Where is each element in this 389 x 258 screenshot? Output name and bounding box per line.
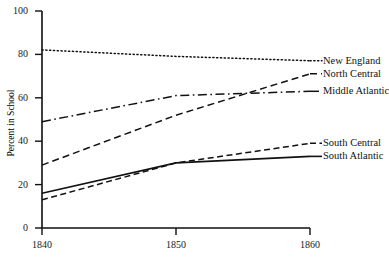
series-line-middle-atlantic (42, 91, 322, 121)
y-tick-marks (35, 11, 42, 228)
y-axis-title: Percent in School (6, 73, 16, 173)
y-tick-label-80: 80 (4, 49, 28, 59)
series-label-south-atlantic: South Atlantic (323, 150, 383, 161)
y-tick-label-100: 100 (4, 6, 28, 16)
x-tick-label-1840: 1840 (22, 240, 62, 250)
axis-lines (42, 11, 310, 228)
series-line-south-central (42, 143, 322, 200)
series-label-south-central: South Central (323, 137, 381, 148)
x-tick-marks (42, 228, 310, 235)
x-tick-label-1850: 1850 (156, 240, 196, 250)
y-tick-label-60: 60 (4, 93, 28, 103)
y-tick-label-20: 20 (4, 180, 28, 190)
y-tick-label-0: 0 (4, 223, 28, 233)
series-label-north-central: North Central (323, 68, 381, 79)
series-label-new-england: New England (323, 55, 380, 66)
series-line-north-central (42, 74, 322, 165)
y-tick-label-40: 40 (4, 136, 28, 146)
x-tick-label-1860: 1860 (290, 240, 330, 250)
series-label-middle-atlantic: Middle Atlantic (323, 85, 389, 96)
series-line-new-england (42, 50, 322, 61)
